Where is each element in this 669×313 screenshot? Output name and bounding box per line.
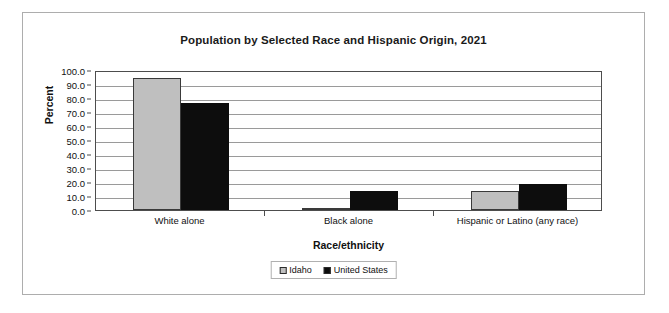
bars-layer <box>96 72 601 210</box>
y-axis-tick-mark <box>87 99 91 100</box>
legend-swatch-icon <box>324 267 331 274</box>
chart-legend: IdahoUnited States <box>270 261 397 279</box>
y-axis-tick-label: 10.0 <box>67 192 86 203</box>
x-axis-title: Race/ethnicity <box>95 239 602 251</box>
legend-item-idaho: Idaho <box>279 265 312 275</box>
y-axis-tick-label: 80.0 <box>67 94 86 105</box>
y-axis-tick-mark <box>87 71 91 72</box>
x-axis-tick-labels: White aloneBlack aloneHispanic or Latino… <box>95 215 602 233</box>
chart-title: Population by Selected Race and Hispanic… <box>23 34 644 46</box>
bar-united-states-2 <box>519 184 567 210</box>
y-axis-tick-label: 0.0 <box>72 206 85 217</box>
y-axis-tick-mark <box>87 141 91 142</box>
bar-united-states-0 <box>181 103 229 210</box>
y-axis-tick-mark <box>87 197 91 198</box>
y-axis-tick-labels: 100.090.080.070.060.050.040.030.020.010.… <box>23 71 91 211</box>
y-axis-tick-mark <box>87 211 91 212</box>
y-axis-tick-mark <box>87 127 91 128</box>
y-axis-tick-label: 40.0 <box>67 150 86 161</box>
y-axis-tick-mark <box>87 169 91 170</box>
plot-area <box>95 71 602 211</box>
y-axis-tick-label: 100.0 <box>61 66 85 77</box>
x-axis-tick-label: Hispanic or Latino (any race) <box>457 215 578 226</box>
chart-figure: Population by Selected Race and Hispanic… <box>22 12 645 295</box>
y-axis-tick-mark <box>87 183 91 184</box>
bar-united-states-1 <box>350 191 398 210</box>
legend-item-united-states: United States <box>324 265 388 275</box>
legend-label: Idaho <box>289 265 312 275</box>
y-axis-tick-mark <box>87 155 91 156</box>
bar-idaho-1 <box>302 208 350 210</box>
x-axis-tick-label: White alone <box>154 215 204 226</box>
x-axis-tick-label: Black alone <box>324 215 373 226</box>
legend-label: United States <box>334 265 388 275</box>
y-axis-tick-label: 60.0 <box>67 122 86 133</box>
y-axis-tick-mark <box>87 113 91 114</box>
bar-idaho-0 <box>133 78 181 210</box>
y-axis-tick-label: 30.0 <box>67 164 86 175</box>
y-axis-tick-label: 90.0 <box>67 80 86 91</box>
y-axis-tick-label: 70.0 <box>67 108 86 119</box>
legend-swatch-icon <box>279 267 286 274</box>
y-axis-tick-label: 20.0 <box>67 178 86 189</box>
y-axis-tick-label: 50.0 <box>67 136 86 147</box>
y-axis-tick-mark <box>87 85 91 86</box>
bar-idaho-2 <box>471 191 519 210</box>
